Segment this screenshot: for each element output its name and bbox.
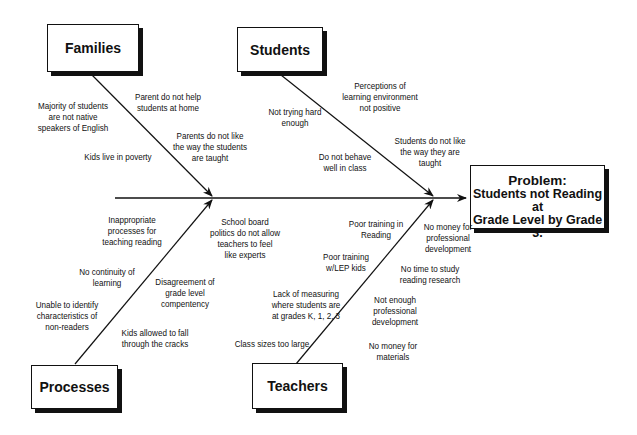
cause-families-4: Kids live in poverty [76, 151, 161, 162]
cause-processes-1: Inappropriate processes for teaching rea… [98, 214, 166, 247]
cause-teachers-4: No time to study reading research [383, 263, 477, 285]
problem-line-1: Students not Reading at [471, 188, 604, 214]
category-label: Processes [39, 379, 109, 395]
category-students: Students [237, 27, 323, 72]
problem-box: Problem: Students not Reading at Grade L… [470, 165, 605, 229]
cause-students-2: Not trying hard enough [257, 106, 334, 128]
cause-processes-6: Kids allowed to fall through the cracks [108, 327, 202, 349]
category-label: Teachers [267, 378, 327, 394]
cause-teachers-2: No money for professional development [414, 221, 482, 254]
cause-processes-3: No continuity of learning [69, 266, 146, 288]
cause-teachers-1: Poor training in Reading [342, 218, 410, 240]
cause-processes-4: Disagreement of grade level compentency [147, 276, 224, 309]
cause-teachers-5: Lack of measuring where students are at … [259, 288, 353, 321]
category-families: Families [47, 24, 139, 72]
cause-families-3: Parents do not like the way the students… [163, 130, 257, 163]
cause-teachers-7: Class sizes too large [225, 338, 319, 349]
category-processes: Processes [31, 365, 118, 409]
cause-students-1: Perceptions of learning environment not … [329, 80, 431, 113]
cause-processes-5: Unable to identify characteristics of no… [25, 299, 110, 332]
cause-students-3: Students do not like the way they are ta… [383, 135, 477, 168]
cause-students-4: Do not behave well in class [307, 151, 384, 173]
cause-teachers-8: No money for materials [355, 340, 432, 362]
cause-families-1: Majority of students are not native spea… [26, 100, 120, 133]
cause-teachers-6: Not enough professional development [357, 294, 434, 327]
problem-title: Problem: [471, 174, 604, 187]
category-label: Students [250, 42, 310, 58]
category-label: Families [65, 40, 121, 56]
problem-line-2: Grade Level by Grade 3. [471, 214, 604, 240]
cause-families-2: Parent do not help students at home [126, 91, 211, 113]
cause-teachers-3: Poor training w/LEP kids [312, 251, 380, 273]
cause-processes-2: School board politics do not allow teach… [198, 216, 292, 260]
category-teachers: Teachers [252, 363, 343, 409]
